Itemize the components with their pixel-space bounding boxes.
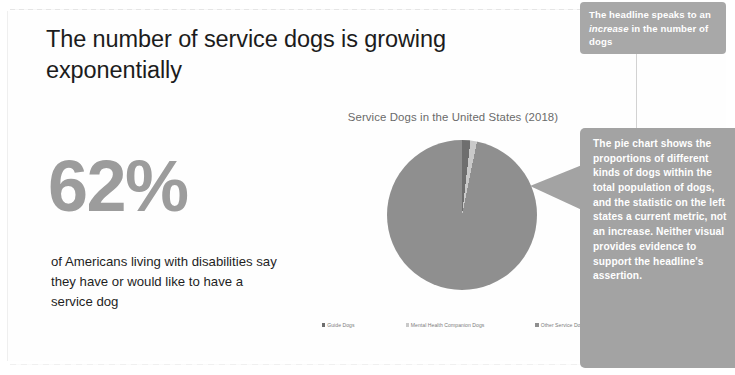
chart-title: Service Dogs in the United States (2018) <box>322 111 584 123</box>
legend-item-label: Guide Dogs <box>327 322 354 328</box>
legend-item[interactable]: Mental Health Companion Dogs <box>406 322 485 328</box>
annotation-top-before: The headline speaks to an <box>589 9 711 20</box>
annotation-connector-line <box>636 54 637 130</box>
legend-swatch-icon <box>535 323 538 326</box>
chart-legend: Guide DogsMental Health Companion DogsOt… <box>322 322 586 328</box>
legend-swatch-icon <box>322 323 325 326</box>
legend-item[interactable]: Other Service Dogs <box>535 322 586 328</box>
annotation-top-emphasis: increase <box>589 23 629 34</box>
slide-headline: The number of service dogs is growing ex… <box>46 24 526 87</box>
pie-chart <box>387 140 537 290</box>
legend-item-label: Mental Health Companion Dogs <box>411 322 485 328</box>
legend-item[interactable]: Guide Dogs <box>322 322 355 328</box>
annotation-callout-pointer <box>530 165 582 210</box>
pie-chart-slices <box>387 140 537 290</box>
legend-swatch-icon <box>406 323 409 326</box>
big-statistic-value: 62% <box>48 150 188 222</box>
slide-canvas: The number of service dogs is growing ex… <box>0 0 735 375</box>
big-statistic-description: of Americans living with disabilities sa… <box>51 252 283 312</box>
annotation-callout-headline: The headline speaks to an increase in th… <box>580 2 726 54</box>
annotation-callout-chart: The pie chart shows the proportions of d… <box>580 128 735 368</box>
